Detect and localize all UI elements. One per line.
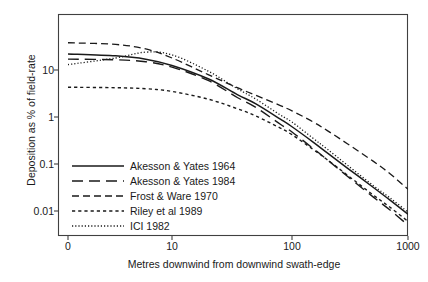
legend-item: Frost & Ware 1970 bbox=[72, 188, 235, 203]
legend-label: ICI 1982 bbox=[130, 220, 170, 232]
legend-line-swatch bbox=[72, 160, 124, 172]
legend-line-swatch bbox=[72, 175, 124, 187]
chart-legend: Akesson & Yates 1964Akesson & Yates 1984… bbox=[72, 158, 235, 233]
legend-item: Akesson & Yates 1964 bbox=[72, 158, 235, 173]
legend-label: Frost & Ware 1970 bbox=[130, 190, 218, 202]
legend-label: Riley et al 1989 bbox=[130, 205, 202, 217]
x-tick-label: 1000 bbox=[396, 240, 419, 252]
x-tick-label: 0 bbox=[65, 240, 71, 252]
legend-line-swatch bbox=[72, 205, 124, 217]
legend-label: Akesson & Yates 1964 bbox=[130, 160, 235, 172]
legend-label: Akesson & Yates 1984 bbox=[130, 175, 235, 187]
legend-item: Riley et al 1989 bbox=[72, 203, 235, 218]
x-tick-label: 10 bbox=[166, 240, 178, 252]
legend-item: Akesson & Yates 1984 bbox=[72, 173, 235, 188]
chart-figure: 1010.10.01 0101001000 Deposition as % of… bbox=[0, 0, 428, 282]
legend-item: ICI 1982 bbox=[72, 218, 235, 233]
x-axis-title: Metres downwind from downwind swath-edge bbox=[58, 258, 410, 270]
y-axis-title: Deposition as % of field-rate bbox=[23, 2, 39, 238]
legend-line-swatch bbox=[72, 220, 124, 232]
x-tick-label: 100 bbox=[283, 240, 301, 252]
legend-line-swatch bbox=[72, 190, 124, 202]
